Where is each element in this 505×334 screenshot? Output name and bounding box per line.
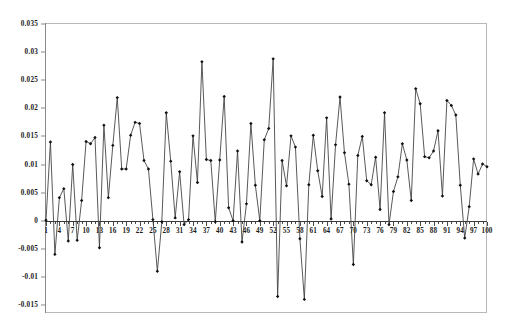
x-tick-major bbox=[287, 222, 288, 226]
x-tick-minor bbox=[442, 222, 443, 225]
x-tick-minor bbox=[224, 222, 225, 225]
x-tick-minor bbox=[211, 222, 212, 225]
x-tick-minor bbox=[77, 222, 78, 225]
x-tick-major bbox=[46, 222, 47, 226]
x-tick-major bbox=[434, 222, 435, 226]
x-tick-label: 55 bbox=[283, 227, 290, 235]
x-tick-minor bbox=[144, 222, 145, 225]
y-tick-label: 0 bbox=[34, 217, 38, 225]
x-tick-label: 31 bbox=[176, 227, 183, 235]
x-tick-minor bbox=[189, 222, 190, 225]
x-tick-minor bbox=[425, 222, 426, 225]
x-tick-label: 67 bbox=[336, 227, 343, 235]
x-tick-major bbox=[86, 222, 87, 226]
x-tick-minor bbox=[108, 222, 109, 225]
x-tick-major bbox=[420, 222, 421, 226]
x-tick-minor bbox=[282, 222, 283, 225]
x-tick-minor bbox=[349, 222, 350, 225]
x-tick-minor bbox=[331, 222, 332, 225]
y-axis-line bbox=[45, 23, 46, 313]
y-tick-label: 0.015 bbox=[21, 132, 38, 140]
x-tick-label: 88 bbox=[430, 227, 437, 235]
x-tick-minor bbox=[362, 222, 363, 225]
x-tick-major bbox=[487, 222, 488, 226]
x-tick-minor bbox=[336, 222, 337, 225]
x-tick-label: 7 bbox=[71, 227, 75, 235]
x-tick-minor bbox=[264, 222, 265, 225]
x-tick-minor bbox=[269, 222, 270, 225]
x-tick-minor bbox=[322, 222, 323, 225]
x-tick-minor bbox=[157, 222, 158, 225]
x-tick-minor bbox=[122, 222, 123, 225]
x-tick-minor bbox=[171, 222, 172, 225]
x-tick-major bbox=[393, 222, 394, 226]
x-tick-minor bbox=[304, 222, 305, 225]
x-tick-minor bbox=[456, 222, 457, 225]
x-tick-label: 58 bbox=[296, 227, 303, 235]
x-tick-minor bbox=[429, 222, 430, 225]
x-tick-major bbox=[447, 222, 448, 226]
x-tick-label: 46 bbox=[243, 227, 250, 235]
x-tick-label: 64 bbox=[323, 227, 330, 235]
plot-area-frame bbox=[45, 23, 487, 313]
x-tick-label: 1 bbox=[44, 227, 48, 235]
x-tick-minor bbox=[469, 222, 470, 225]
x-tick-label: 82 bbox=[403, 227, 410, 235]
x-tick-minor bbox=[135, 222, 136, 225]
y-tick-label: -0.005 bbox=[18, 245, 38, 253]
y-tick-label: 0.035 bbox=[21, 20, 38, 28]
x-tick-major bbox=[460, 222, 461, 226]
y-tick-mark bbox=[41, 80, 45, 81]
x-tick-label: 97 bbox=[470, 227, 477, 235]
x-tick-minor bbox=[229, 222, 230, 225]
x-tick-major bbox=[233, 222, 234, 226]
y-tick-mark bbox=[41, 52, 45, 53]
y-tick-mark bbox=[41, 136, 45, 137]
y-tick-label: -0.015 bbox=[18, 301, 38, 309]
x-tick-minor bbox=[238, 222, 239, 225]
x-tick-major bbox=[153, 222, 154, 226]
x-tick-major bbox=[193, 222, 194, 226]
x-tick-minor bbox=[376, 222, 377, 225]
x-tick-label: 79 bbox=[390, 227, 397, 235]
x-tick-major bbox=[327, 222, 328, 226]
x-tick-minor bbox=[318, 222, 319, 225]
x-tick-label: 91 bbox=[443, 227, 450, 235]
x-tick-label: 13 bbox=[96, 227, 103, 235]
x-tick-major bbox=[300, 222, 301, 226]
x-tick-major bbox=[273, 222, 274, 226]
x-tick-minor bbox=[295, 222, 296, 225]
x-tick-major bbox=[206, 222, 207, 226]
x-tick-label: 25 bbox=[149, 227, 156, 235]
x-tick-minor bbox=[175, 222, 176, 225]
x-tick-major bbox=[246, 222, 247, 226]
x-tick-major bbox=[73, 222, 74, 226]
y-tick-mark bbox=[41, 108, 45, 109]
y-tick-label: 0.02 bbox=[25, 104, 38, 112]
x-tick-minor bbox=[104, 222, 105, 225]
x-tick-label: 52 bbox=[269, 227, 276, 235]
x-tick-major bbox=[340, 222, 341, 226]
x-tick-major bbox=[474, 222, 475, 226]
x-tick-label: 76 bbox=[376, 227, 383, 235]
x-tick-minor bbox=[197, 222, 198, 225]
x-tick-minor bbox=[184, 222, 185, 225]
x-tick-minor bbox=[251, 222, 252, 225]
y-tick-mark bbox=[41, 24, 45, 25]
x-tick-major bbox=[166, 222, 167, 226]
x-tick-minor bbox=[411, 222, 412, 225]
x-tick-minor bbox=[202, 222, 203, 225]
x-tick-minor bbox=[215, 222, 216, 225]
x-tick-major bbox=[380, 222, 381, 226]
y-tick-label: 0.005 bbox=[21, 189, 38, 197]
y-tick-label: -0.01 bbox=[22, 273, 38, 281]
x-tick-minor bbox=[465, 222, 466, 225]
x-tick-minor bbox=[50, 222, 51, 225]
x-tick-minor bbox=[64, 222, 65, 225]
x-tick-label: 43 bbox=[229, 227, 236, 235]
x-tick-minor bbox=[117, 222, 118, 225]
y-tick-label: 0.01 bbox=[25, 161, 38, 169]
y-tick-label: 0.03 bbox=[25, 48, 38, 56]
x-tick-major bbox=[140, 222, 141, 226]
x-tick-label: 22 bbox=[136, 227, 143, 235]
